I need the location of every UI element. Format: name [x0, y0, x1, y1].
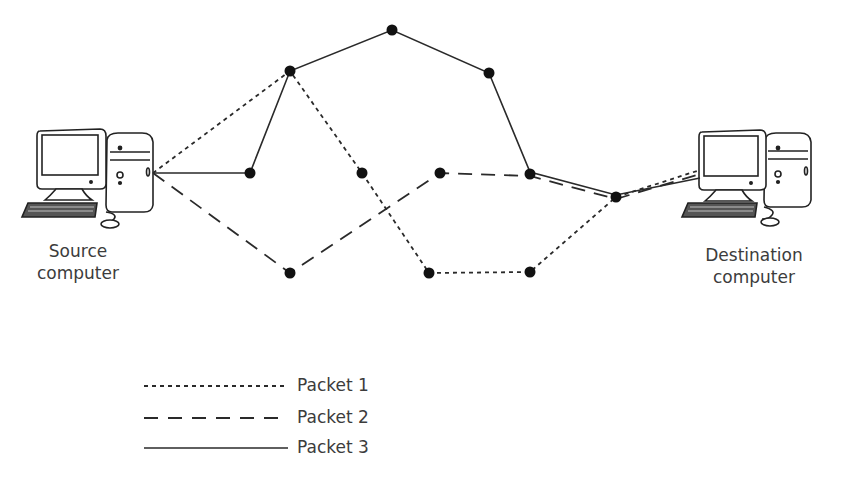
- destination-label-line1: Destination: [688, 244, 820, 266]
- source-label-line2: computer: [22, 262, 134, 284]
- legend-label-packet-3: Packet 3: [297, 437, 369, 457]
- router-node: [387, 25, 398, 36]
- router-node: [285, 268, 296, 279]
- legend-swatches: [144, 386, 288, 448]
- router-node: [525, 267, 536, 278]
- packet-1-path: [153, 71, 700, 273]
- legend-label-packet-1: Packet 1: [297, 375, 369, 395]
- source-label-line1: Source: [22, 240, 134, 262]
- router-node: [611, 192, 622, 203]
- packet-3-path: [153, 30, 700, 195]
- router-node: [357, 168, 368, 179]
- source-computer-label: Source computer: [22, 240, 134, 284]
- destination-computer-label: Destination computer: [688, 244, 820, 288]
- legend-label-packet-2: Packet 2: [297, 407, 369, 427]
- destination-label-line2: computer: [688, 266, 820, 288]
- router-node: [424, 268, 435, 279]
- source-computer-icon: [22, 129, 153, 228]
- destination-computer-icon: [682, 130, 811, 226]
- router-node: [285, 66, 296, 77]
- router-node: [435, 168, 446, 179]
- router-node: [525, 169, 536, 180]
- router-node: [484, 68, 495, 79]
- packet-2-path: [153, 173, 700, 273]
- router-node: [245, 168, 256, 179]
- router-nodes: [245, 25, 622, 279]
